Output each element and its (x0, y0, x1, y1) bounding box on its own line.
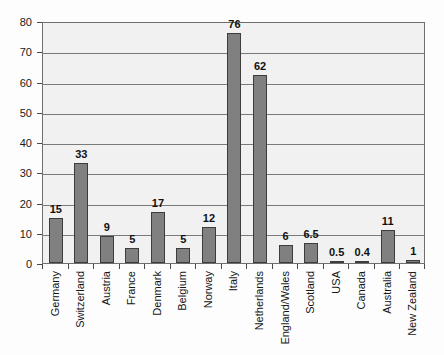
x-axis-label-text: Norway (202, 271, 215, 308)
bar-group: 62 (247, 23, 273, 263)
x-axis-label-text: Belgium (176, 271, 189, 311)
x-axis-label-text: USA (330, 271, 343, 294)
x-axis-label-text: France (125, 271, 138, 305)
bar-group: 5 (120, 23, 146, 263)
x-axis-labels: GermanySwitzerlandAustriaFranceDenmarkBe… (42, 271, 425, 355)
x-axis-label-text: Denmark (151, 271, 164, 316)
bar[interactable] (176, 248, 190, 263)
bar[interactable] (253, 75, 267, 263)
y-tick-label: 60 (20, 77, 32, 88)
bar-group: 9 (94, 23, 120, 263)
x-axis-label-text: England/Wales (279, 271, 292, 345)
bar[interactable] (49, 218, 63, 263)
bar-group: 17 (145, 23, 171, 263)
bar[interactable] (355, 261, 369, 263)
bar-group: 12 (196, 23, 222, 263)
y-tick-label: 10 (20, 228, 32, 239)
x-tick-mark (323, 264, 324, 269)
x-axis-label: Scotland (297, 271, 323, 355)
bar-group: 6.5 (298, 23, 324, 263)
bar-value-label: 5 (180, 234, 186, 245)
x-axis-label: Canada (348, 271, 374, 355)
y-tick-label: 70 (20, 47, 32, 58)
bar[interactable] (125, 248, 139, 263)
bar-value-label: 1 (410, 246, 416, 257)
bar-group: 33 (69, 23, 95, 263)
x-axis-label: Norway (195, 271, 221, 355)
bar-value-label: 17 (152, 198, 164, 209)
x-tick-mark (399, 264, 400, 269)
x-axis-label: Italy (221, 271, 247, 355)
x-axis-label-text: Austria (100, 271, 113, 305)
bar-group: 15 (43, 23, 69, 263)
y-tick-label: 30 (20, 168, 32, 179)
x-tick-mark (424, 264, 425, 269)
x-axis-label: Austria (93, 271, 119, 355)
x-axis-label-text: Scotland (304, 271, 317, 314)
x-axis-label-text: New Zealand (406, 271, 419, 336)
bar-value-label: 15 (50, 204, 62, 215)
bar-chart: 01020304050607080 15339517512766266.50.5… (0, 0, 444, 355)
x-tick-mark (195, 264, 196, 269)
bar[interactable] (330, 261, 344, 263)
x-axis-label-text: Germany (49, 271, 62, 316)
x-tick-mark (297, 264, 298, 269)
x-axis-label-text: Switzerland (74, 271, 87, 328)
y-tick-label: 0 (26, 259, 32, 270)
y-tick-label: 40 (20, 138, 32, 149)
x-axis-label: Germany (42, 271, 68, 355)
x-tick-mark (348, 264, 349, 269)
bar-value-label: 9 (104, 222, 110, 233)
bar-group: 1 (400, 23, 426, 263)
x-axis-label: Switzerland (68, 271, 94, 355)
bar[interactable] (279, 245, 293, 263)
x-tick-mark (272, 264, 273, 269)
x-axis-label-text: Canada (355, 271, 368, 310)
x-tick-mark (119, 264, 120, 269)
x-axis-label: Netherlands (246, 271, 272, 355)
x-axis-label: Australia (374, 271, 400, 355)
x-tick-mark (42, 264, 43, 269)
bar[interactable] (151, 212, 165, 263)
bar-value-label: 5 (129, 234, 135, 245)
bar[interactable] (227, 33, 241, 263)
x-axis-label: USA (323, 271, 349, 355)
x-axis-label-text: Australia (381, 271, 394, 314)
bar[interactable] (100, 236, 114, 263)
x-axis-label: Belgium (170, 271, 196, 355)
bar[interactable] (406, 260, 420, 263)
bar-value-label: 0.4 (355, 247, 370, 258)
x-tick-mark (374, 264, 375, 269)
bar-value-label: 76 (228, 19, 240, 30)
x-axis-label-text: Netherlands (253, 271, 266, 330)
x-tick-mark (68, 264, 69, 269)
x-tick-mark (246, 264, 247, 269)
bar-value-label: 62 (254, 61, 266, 72)
bar[interactable] (381, 230, 395, 263)
bar-group: 0.5 (324, 23, 350, 263)
bar-value-label: 12 (203, 213, 215, 224)
y-tick-label: 20 (20, 198, 32, 209)
bar-value-label: 33 (75, 149, 87, 160)
bar-value-label: 0.5 (329, 247, 344, 258)
x-axis-label: France (119, 271, 145, 355)
bar[interactable] (74, 163, 88, 263)
x-axis-label: England/Wales (272, 271, 298, 355)
x-axis-label: New Zealand (399, 271, 425, 355)
x-axis-ticks (42, 264, 425, 270)
bar-group: 76 (222, 23, 248, 263)
bar-value-label: 11 (382, 216, 394, 227)
bar-value-label: 6.5 (303, 229, 318, 240)
bar-group: 5 (171, 23, 197, 263)
bar-group: 11 (375, 23, 401, 263)
y-tick-label: 50 (20, 107, 32, 118)
x-axis-label-text: Italy (227, 271, 240, 291)
x-tick-mark (221, 264, 222, 269)
bar[interactable] (304, 243, 318, 263)
bar-value-label: 6 (283, 231, 289, 242)
x-tick-mark (170, 264, 171, 269)
x-axis-label: Denmark (144, 271, 170, 355)
bar[interactable] (202, 227, 216, 263)
bar-group: 0.4 (349, 23, 375, 263)
plot-area: 15339517512766266.50.50.4111 (42, 22, 425, 264)
